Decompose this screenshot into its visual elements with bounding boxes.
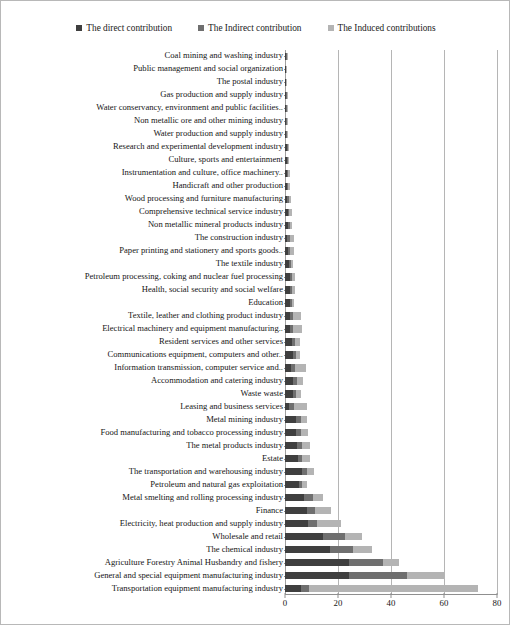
bar-row <box>285 507 497 514</box>
legend-swatch-indirect <box>198 25 204 31</box>
category-label: Comprehensive technical service industry <box>139 207 283 216</box>
bar-segment-direct <box>285 546 330 553</box>
bar-row <box>285 260 497 267</box>
bar-segment-direct <box>285 338 292 345</box>
category-label: Wholesale and retail <box>212 532 283 541</box>
bar-segment-direct <box>285 481 299 488</box>
bar-segment-indirect <box>349 559 383 566</box>
category-label: Food manufacturing and tobacco processin… <box>100 428 283 437</box>
category-label: Health, social security and social welfa… <box>142 285 283 294</box>
bar-row <box>285 209 497 216</box>
bar-row <box>285 494 497 501</box>
bar-segment-induced <box>291 260 293 267</box>
bar-row <box>285 364 497 371</box>
bar-segment-induced <box>289 196 291 203</box>
bar-row <box>285 481 497 488</box>
bar-row <box>285 585 497 592</box>
legend-item-induced: The Induced contributions <box>328 23 436 33</box>
bar-segment-indirect <box>349 572 407 579</box>
gridline-80 <box>497 50 498 595</box>
category-label: Electricity, heat production and supply … <box>120 519 283 528</box>
bar-row <box>285 286 497 293</box>
chart-legend: The direct contribution The Indirect con… <box>1 23 510 33</box>
bar-row <box>285 247 497 254</box>
bar-rows <box>285 50 497 595</box>
bar-row <box>285 131 497 138</box>
category-label: Non metallic mineral products industry <box>148 220 283 229</box>
bar-row <box>285 338 497 345</box>
bar-segment-induced <box>289 209 291 216</box>
bar-segment-induced <box>296 351 300 358</box>
category-label: Culture, sports and entertainment <box>168 155 283 164</box>
bar-segment-direct <box>285 429 296 436</box>
category-label: General and special equipment manufactur… <box>94 571 283 580</box>
bar-row <box>285 273 497 280</box>
bar-segment-indirect <box>330 546 353 553</box>
bar-row <box>285 157 497 164</box>
category-label: Gas production and supply industry <box>160 90 283 99</box>
bar-segment-induced <box>288 170 290 177</box>
category-label: The construction industry <box>195 233 283 242</box>
chart-container: The direct contribution The Indirect con… <box>0 0 510 625</box>
bar-segment-induced <box>313 494 323 501</box>
bar-segment-induced <box>345 533 362 540</box>
legend-swatch-direct <box>76 25 82 31</box>
category-label: Public management and social organizatio… <box>133 64 283 73</box>
bar-segment-induced <box>293 325 301 332</box>
category-label: Water production and supply industry <box>153 129 283 138</box>
x-tick-label-0: 0 <box>283 598 287 608</box>
category-label: Non metallic ore and other mining indust… <box>134 116 283 125</box>
bar-segment-direct <box>285 520 308 527</box>
legend-item-direct: The direct contribution <box>76 23 172 33</box>
bar-row <box>285 222 497 229</box>
bar-row <box>285 468 497 475</box>
category-label: Petroleum processing, coking and nuclear… <box>85 272 283 281</box>
category-label: Petroleum and natural gas exploitation <box>150 480 283 489</box>
bar-segment-induced <box>287 53 288 60</box>
bar-segment-induced <box>407 572 444 579</box>
category-label: Water conservancy, environment and publi… <box>96 103 283 112</box>
bar-segment-induced <box>302 455 310 462</box>
bar-row <box>285 105 497 112</box>
category-label: Coal mining and washing industry <box>165 51 283 60</box>
x-tick-label-20: 20 <box>334 598 343 608</box>
bar-row <box>285 455 497 462</box>
category-label: Waste waste <box>241 389 284 398</box>
bar-segment-direct <box>285 416 296 423</box>
category-label: The chemical industry <box>206 545 283 554</box>
bar-segment-induced <box>295 364 306 371</box>
bar-segment-induced <box>288 144 289 151</box>
category-label: The textile industry <box>216 259 283 268</box>
legend-swatch-induced <box>328 25 334 31</box>
bar-row <box>285 299 497 306</box>
category-label: Research and experimental development in… <box>113 142 283 151</box>
category-label: Metal smelting and rolling processing in… <box>122 493 283 502</box>
bar-segment-induced <box>286 66 287 73</box>
bar-segment-induced <box>295 338 300 345</box>
bar-segment-direct <box>285 390 293 397</box>
bar-segment-induced <box>317 520 341 527</box>
bar-segment-induced <box>302 442 309 449</box>
bar-segment-direct <box>285 507 307 514</box>
bar-segment-indirect <box>304 494 314 501</box>
bar-segment-induced <box>287 92 288 99</box>
category-label: The transportation and warehousing indus… <box>129 467 283 476</box>
bar-row <box>285 118 497 125</box>
bar-segment-indirect <box>301 585 309 592</box>
x-tick-label-80: 80 <box>493 598 502 608</box>
bar-row <box>285 429 497 436</box>
category-label: Wood processing and furniture manufactur… <box>125 194 283 203</box>
category-label: Education <box>248 298 283 307</box>
bar-segment-induced <box>290 235 294 242</box>
bar-segment-induced <box>297 377 303 384</box>
bar-row <box>285 533 497 540</box>
bar-row <box>285 390 497 397</box>
legend-label-direct: The direct contribution <box>86 23 172 33</box>
category-label: Textile, leather and clothing product in… <box>128 311 283 320</box>
bar-row <box>285 559 497 566</box>
bar-segment-induced <box>287 118 288 125</box>
bar-segment-direct <box>285 377 293 384</box>
legend-label-induced: The Induced contributions <box>338 23 436 33</box>
bar-segment-induced <box>287 105 288 112</box>
category-label: Paper printing and stationery and sports… <box>119 246 283 255</box>
